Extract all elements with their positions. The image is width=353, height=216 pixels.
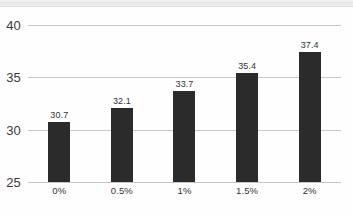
y-axis-tick-label: 25 bbox=[6, 175, 21, 190]
bar-value-label: 32.1 bbox=[113, 96, 131, 106]
bar-chart: 25303540 30.70%32.10.5%33.71%35.41.5%37.… bbox=[0, 0, 353, 216]
bar bbox=[236, 73, 258, 182]
gridline-25 bbox=[28, 182, 341, 183]
bar-group: 33.71% bbox=[153, 25, 216, 182]
x-axis-tick-label: 2% bbox=[303, 185, 317, 196]
bar-value-label: 33.7 bbox=[176, 79, 194, 89]
x-axis-tick-label: 1% bbox=[178, 185, 192, 196]
x-axis-tick-label: 1.5% bbox=[236, 185, 258, 196]
bar bbox=[111, 108, 133, 182]
bar-value-label: 30.7 bbox=[50, 110, 68, 120]
bar-value-label: 37.4 bbox=[301, 40, 319, 50]
plot-area: 25303540 30.70%32.10.5%33.71%35.41.5%37.… bbox=[28, 25, 341, 182]
scan-artifact-line bbox=[0, 6, 353, 7]
bar-value-label: 35.4 bbox=[238, 61, 256, 71]
bar bbox=[173, 91, 195, 182]
y-axis-tick-label: 40 bbox=[6, 18, 21, 33]
bar bbox=[299, 52, 321, 182]
bar-group: 32.10.5% bbox=[91, 25, 154, 182]
x-axis-tick-label: 0.5% bbox=[111, 185, 133, 196]
bar bbox=[48, 122, 70, 182]
y-axis-tick-label: 35 bbox=[6, 70, 21, 85]
bar-group: 35.41.5% bbox=[216, 25, 279, 182]
bar-group: 30.70% bbox=[28, 25, 91, 182]
bars: 30.70%32.10.5%33.71%35.41.5%37.42% bbox=[28, 25, 341, 182]
y-axis-tick-label: 30 bbox=[6, 122, 21, 137]
bar-group: 37.42% bbox=[278, 25, 341, 182]
x-axis-tick-label: 0% bbox=[52, 185, 66, 196]
